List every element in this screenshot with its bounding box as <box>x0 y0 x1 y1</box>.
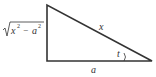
angle-arc <box>124 53 126 61</box>
svg-text:a: a <box>32 25 37 36</box>
hypotenuse-label: x <box>98 21 104 32</box>
svg-text:x: x <box>10 25 16 36</box>
right-triangle <box>47 5 152 61</box>
triangle-diagram: x t a x 2 − a 2 <box>0 0 156 77</box>
svg-text:2: 2 <box>38 23 41 29</box>
svg-text:2: 2 <box>17 23 20 29</box>
angle-label: t <box>117 48 120 59</box>
base-label: a <box>91 64 96 75</box>
vertical-side-label: x 2 − a 2 <box>3 22 44 36</box>
svg-text:−: − <box>23 25 28 35</box>
